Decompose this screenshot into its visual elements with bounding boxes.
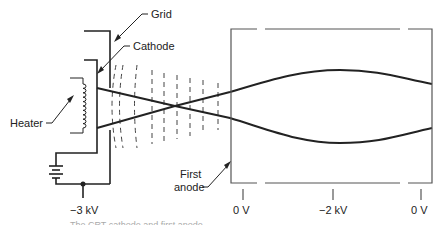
junction-dot (81, 182, 86, 187)
first-anode (231, 29, 432, 200)
cathode-voltage-label: −3 kV (70, 204, 99, 216)
first-anode-label-line1: First (180, 168, 201, 180)
heater-label: Heater (10, 117, 43, 129)
grid-leader (118, 14, 148, 38)
crt-electron-gun-diagram: Grid Cathode Heater First anode −3 kV 0 … (0, 0, 444, 225)
figure-caption: The CRT cathode and first anode (70, 220, 203, 225)
heater-leader (46, 100, 70, 123)
anode-leader (202, 165, 228, 187)
cathode-electrode (56, 60, 97, 166)
grid-label: Grid (151, 8, 172, 20)
electron-beam (97, 70, 432, 143)
battery-icon (49, 166, 110, 184)
grid-arrowhead (114, 34, 121, 42)
equipotential-lines (112, 65, 218, 148)
cathode-arrowhead (97, 66, 104, 74)
anode-left-voltage-label: 0 V (233, 204, 250, 216)
anode-right-voltage-label: 0 V (411, 204, 428, 216)
first-anode-label-line2: anode (174, 181, 205, 193)
heater-coil-icon (70, 78, 86, 133)
anode-middle-voltage-label: −2 kV (319, 204, 348, 216)
cathode-label: Cathode (133, 40, 175, 52)
